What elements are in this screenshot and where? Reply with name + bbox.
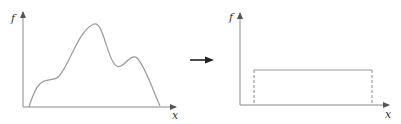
right-x-axis-label: x — [385, 108, 392, 121]
diagram-canvas: f x f x — [0, 0, 401, 124]
right-plot: f x — [228, 11, 392, 121]
left-x-axis-label: x — [172, 109, 179, 122]
multimodal-curve — [29, 24, 160, 107]
right-y-axis-label: f — [228, 11, 235, 24]
left-plot: f x — [10, 12, 179, 122]
left-y-axis-label: f — [10, 12, 17, 25]
